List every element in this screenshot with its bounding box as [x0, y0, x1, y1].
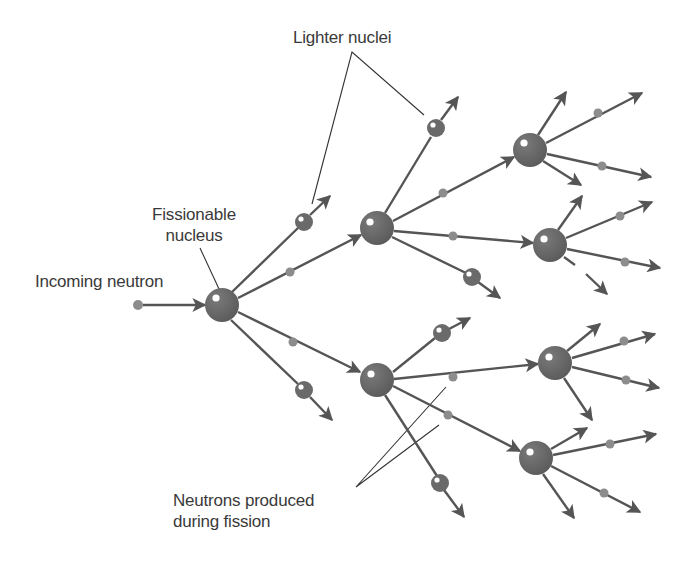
label-neutrons-line1: Neutrons produced: [173, 490, 314, 511]
lighter-nucleus: [463, 268, 481, 286]
label-incoming-neutron: Incoming neutron: [35, 271, 163, 292]
lighter-nuclei: [295, 119, 481, 492]
label-lighter-nuclei: Lighter nuclei: [293, 27, 391, 48]
leader-lines: [200, 52, 446, 487]
fissionable-nucleus-g: [519, 441, 553, 475]
fissionable-nucleus-a: [205, 288, 239, 322]
lighter-nucleus: [431, 474, 449, 492]
leader-neutrons-produced: [356, 387, 446, 487]
label-neutrons-line2: during fission: [173, 511, 314, 532]
fissionable-nucleus-c: [360, 363, 394, 397]
label-fissionable-line1: Fissionable: [142, 204, 246, 225]
fissionable-nuclei: [205, 133, 572, 475]
fissionable-nucleus-d: [513, 133, 547, 167]
lighter-nucleus: [295, 381, 313, 399]
fissionable-nucleus-e: [533, 228, 567, 262]
fissionable-nucleus-b: [360, 211, 394, 245]
incoming-neutron-dot: [133, 300, 143, 310]
fissionable-nucleus-f: [538, 346, 572, 380]
label-fissionable-nucleus: Fissionable nucleus: [142, 204, 246, 246]
label-fissionable-line2: nucleus: [142, 225, 246, 246]
lighter-nucleus: [433, 324, 451, 342]
lighter-nucleus: [295, 213, 313, 231]
leader-lighter-nuclei: [312, 52, 424, 204]
leader-fissionable-nucleus: [200, 248, 219, 289]
label-neutrons-produced: Neutrons produced during fission: [173, 490, 314, 532]
lighter-nucleus: [427, 119, 445, 137]
